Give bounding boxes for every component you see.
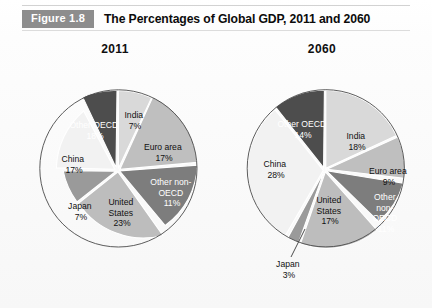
top-divider <box>22 5 410 6</box>
pie-chart-2011: India 7% Euro area 17% Other non- OECD 1… <box>40 90 198 247</box>
pie-chart-2060: India 18% Euro area 9% Other non- OECD 1… <box>247 90 409 280</box>
figure-page: Figure 1.8 The Percentages of Global GDP… <box>0 0 432 308</box>
label-india-2060: India 18% <box>346 131 367 152</box>
figure-header: Figure 1.8 The Percentages of Global GDP… <box>22 9 422 29</box>
figure-title: The Percentages of Global GDP, 2011 and … <box>104 12 370 26</box>
header-divider <box>22 30 410 31</box>
label-japan-2060: Japan 3% <box>276 259 302 280</box>
figure-number-badge: Figure 1.8 <box>22 10 94 28</box>
pie-charts-svg: India 7% Euro area 17% Other non- OECD 1… <box>0 33 432 308</box>
label-other-non-oecd-2060: Other non- OECD 11% <box>372 192 399 234</box>
charts-area: 2011 2060 India <box>0 33 432 308</box>
